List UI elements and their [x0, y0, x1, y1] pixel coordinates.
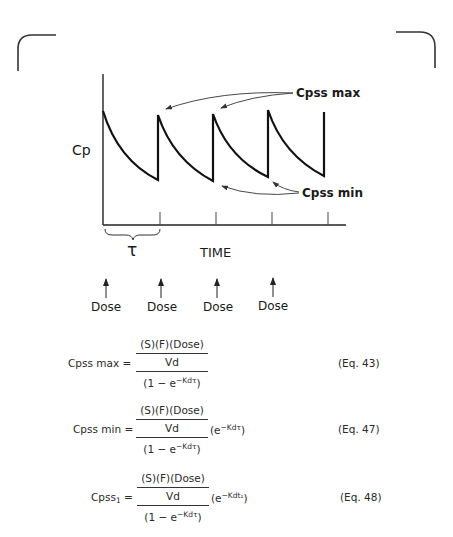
equation-48-middle: Vd — [137, 490, 209, 503]
cpss-min-arrow-2 — [273, 182, 299, 192]
equation-47-middle: Vd — [136, 422, 208, 435]
cpss-min-label: Cpss min — [302, 186, 363, 200]
equation-48-numerator: (S)(F)(Dose) — [137, 472, 209, 485]
equation-43-label: Cpss max = — [68, 357, 131, 369]
fraction-bar — [136, 371, 208, 372]
fraction-bar — [137, 487, 209, 488]
fraction-bar — [136, 437, 208, 438]
equation-43-middle: Vd — [136, 356, 208, 369]
dose-label-2: Dose — [147, 300, 177, 314]
cpss-max-label: Cpss max — [296, 86, 360, 100]
equation-47-number: (Eq. 47) — [338, 423, 380, 435]
corner-bracket-left — [18, 35, 56, 71]
x-axis-label: TIME — [199, 245, 231, 260]
fraction-bar — [136, 419, 208, 420]
y-axis-label: Cp — [72, 142, 91, 158]
equation-47-label: Cpss min = — [73, 423, 133, 435]
cpss-max-arrow-2 — [221, 93, 293, 108]
equation-47-fraction: (S)(F)(Dose) Vd (1 − e−Kdτ) — [136, 404, 208, 456]
equation-48-denominator: (1 − e−Kdτ) — [137, 508, 209, 524]
x-axis-ticks — [160, 212, 328, 225]
equation-48-tail: (e−Kdt₁) — [211, 491, 248, 504]
dose-label-1: Dose — [91, 300, 121, 314]
equation-43-fraction: (S)(F)(Dose) Vd (1 − e−Kdτ) — [136, 338, 208, 390]
equation-43-numerator: (S)(F)(Dose) — [136, 338, 208, 351]
concentration-curve — [103, 110, 324, 181]
equation-48-label: Cpss1 = — [91, 491, 133, 505]
cpss-min-arrow-1 — [222, 186, 299, 194]
dose-label-3: Dose — [203, 300, 233, 314]
fraction-bar — [136, 353, 208, 354]
equation-47-denominator: (1 − e−Kdτ) — [136, 440, 208, 456]
equation-43-number: (Eq. 43) — [338, 357, 380, 369]
equation-47-numerator: (S)(F)(Dose) — [136, 404, 208, 417]
equation-47-tail: (e−Kdτ) — [210, 423, 245, 436]
tau-symbol: τ — [127, 240, 137, 260]
tau-brace — [105, 229, 160, 240]
equation-43-denominator: (1 − e−Kdτ) — [136, 374, 208, 390]
equation-48-number: (Eq. 48) — [340, 491, 382, 503]
corner-bracket-right — [396, 32, 435, 68]
equation-48-fraction: (S)(F)(Dose) Vd (1 − e−Kdτ) — [137, 472, 209, 524]
concentration-time-diagram: Cp TIME τ Cpss max Cpss min Dose Dose Do… — [0, 0, 453, 537]
dose-arrows — [106, 278, 273, 298]
fraction-bar — [137, 505, 209, 506]
dose-label-4: Dose — [258, 299, 288, 313]
